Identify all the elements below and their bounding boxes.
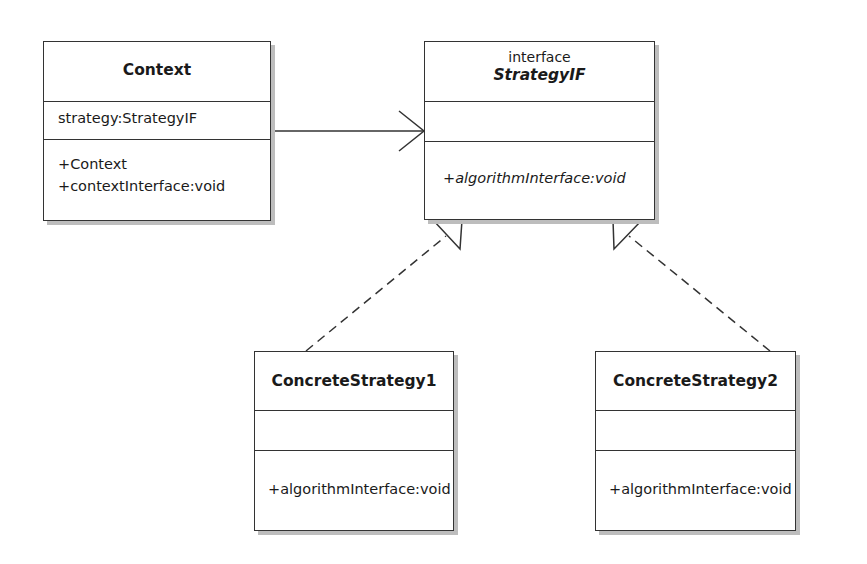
- operations-section: +algorithmInterface:void: [425, 141, 654, 219]
- association-arrow: [271, 111, 424, 151]
- class-name-section: interface StrategyIF: [425, 42, 654, 101]
- class-name: ConcreteStrategy1: [255, 372, 453, 390]
- class-name: StrategyIF: [425, 66, 654, 84]
- operation: +contextInterface:void: [58, 178, 225, 194]
- class-name-section: ConcreteStrategy2: [596, 352, 795, 410]
- realization-arrow-concrete2: [613, 220, 770, 351]
- class-name: Context: [44, 61, 270, 79]
- class-context[interactable]: Context strategy:StrategyIF +Context +co…: [43, 41, 271, 221]
- attributes-section: [255, 410, 453, 450]
- operation: +algorithmInterface:void: [609, 481, 792, 497]
- class-name: ConcreteStrategy2: [596, 372, 795, 390]
- stereotype-label: interface: [425, 49, 654, 65]
- class-name-section: ConcreteStrategy1: [255, 352, 453, 410]
- operation: +algorithmInterface:void: [443, 170, 626, 186]
- operation: +algorithmInterface:void: [268, 481, 451, 497]
- interface-strategy-if[interactable]: interface StrategyIF +algorithmInterface…: [424, 41, 655, 220]
- attribute: strategy:StrategyIF: [58, 110, 197, 126]
- operations-section: +algorithmInterface:void: [596, 450, 795, 530]
- class-name-section: Context: [44, 42, 270, 101]
- operation: +Context: [58, 156, 127, 172]
- attributes-section: [596, 410, 795, 450]
- attributes-section: [425, 101, 654, 141]
- attributes-section: strategy:StrategyIF: [44, 101, 270, 139]
- class-concrete-strategy-1[interactable]: ConcreteStrategy1 +algorithmInterface:vo…: [254, 351, 454, 531]
- class-concrete-strategy-2[interactable]: ConcreteStrategy2 +algorithmInterface:vo…: [595, 351, 796, 531]
- realization-arrow-concrete1: [306, 220, 462, 351]
- operations-section: +Context +contextInterface:void: [44, 139, 270, 220]
- operations-section: +algorithmInterface:void: [255, 450, 453, 530]
